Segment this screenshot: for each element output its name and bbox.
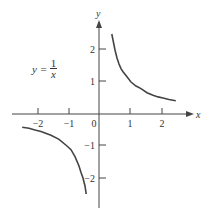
equation-denominator: x: [51, 69, 56, 79]
x-tick-label: −2: [33, 118, 44, 129]
x-tick-label: 2: [160, 118, 165, 129]
plot-area: −2 −1 0 1 2 2 1 −1 −2 x y: [0, 0, 204, 217]
equation-fraction: 1 x: [50, 58, 57, 79]
function-annotation: y = 1 x: [32, 58, 57, 79]
x-tick-label: −1: [64, 118, 75, 129]
y-axis-label: y: [95, 8, 101, 19]
curve-negative: [22, 127, 86, 194]
y-tick-label: −2: [84, 173, 95, 184]
x-axis-label: x: [195, 109, 201, 120]
x-tick-label: 0: [92, 118, 97, 129]
equation-numerator: 1: [51, 58, 57, 68]
x-tick-label: 1: [128, 118, 133, 129]
y-axis-arrow-icon: [96, 20, 102, 28]
equation-lhs: y =: [32, 63, 47, 75]
chart-root: −2 −1 0 1 2 2 1 −1 −2 x y y = 1 x: [0, 0, 204, 217]
curve-positive: [112, 34, 176, 101]
y-tick-label: 1: [90, 76, 95, 87]
x-axis-arrow-icon: [186, 111, 194, 117]
x-ticks: [38, 108, 162, 114]
y-tick-label: 2: [90, 44, 95, 55]
y-tick-label: −1: [84, 140, 95, 151]
